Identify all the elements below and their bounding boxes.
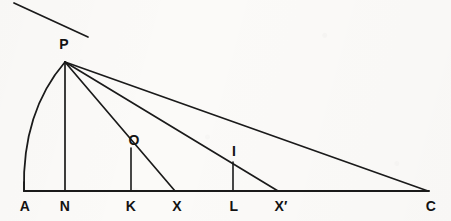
point-label-i: I xyxy=(232,144,236,158)
point-label-k: K xyxy=(126,199,136,213)
point-label-a: A xyxy=(20,199,30,213)
geometry-canvas xyxy=(0,0,451,221)
point-label-l: L xyxy=(230,199,239,213)
point-label-x-prime: X′ xyxy=(274,199,287,213)
arc-a-to-p xyxy=(24,62,65,191)
point-label-x: X xyxy=(172,199,182,213)
geometry-figure: A N K X L X′ C P O I xyxy=(0,0,451,221)
point-label-o: O xyxy=(128,133,139,147)
point-label-p: P xyxy=(59,37,69,51)
tangent-line-at-p xyxy=(14,3,88,37)
point-label-c: C xyxy=(426,199,436,213)
point-label-n: N xyxy=(60,199,70,213)
